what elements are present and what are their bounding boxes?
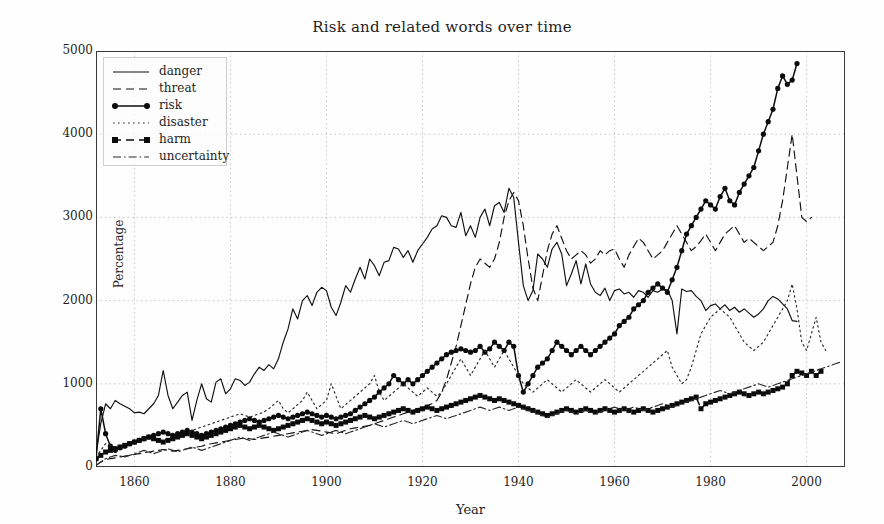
x-tick-label: 1920 [392, 475, 452, 489]
x-tick-label: 2000 [777, 475, 837, 489]
chart-figure: Risk and related words over time dangert… [0, 0, 884, 524]
legend-item-danger[interactable]: danger [104, 62, 226, 79]
legend-label: risk [152, 98, 182, 112]
y-tick-label: 3000 [33, 209, 93, 223]
legend-swatch-danger-icon [110, 64, 152, 78]
legend-label: threat [152, 81, 196, 95]
x-tick-label: 1900 [296, 475, 356, 489]
legend-item-uncertainty[interactable]: uncertainty [104, 147, 226, 164]
y-axis-label: Percentage [112, 184, 126, 324]
legend-swatch-uncertainty-icon [110, 149, 152, 163]
x-tick-label: 1880 [200, 475, 260, 489]
x-axis-label: Year [96, 502, 845, 517]
y-tick-label: 2000 [33, 293, 93, 307]
legend-item-risk[interactable]: risk [104, 96, 226, 113]
y-tick-label: 5000 [33, 43, 93, 57]
plot-area: dangerthreatriskdisasterharmuncertainty … [96, 51, 845, 467]
y-tick-label: 4000 [33, 126, 93, 140]
legend-item-disaster[interactable]: disaster [104, 113, 226, 130]
series-disaster [96, 284, 826, 457]
y-tick-label: 1000 [33, 376, 93, 390]
legend-label: harm [152, 132, 191, 146]
x-tick-label: 1960 [585, 475, 645, 489]
legend-swatch-harm-icon [110, 132, 152, 146]
legend-item-threat[interactable]: threat [104, 79, 226, 96]
y-tick-label: 0 [33, 459, 93, 473]
legend-swatch-threat-icon [110, 81, 152, 95]
series-harm [96, 369, 823, 461]
x-tick-label: 1980 [681, 475, 741, 489]
legend-swatch-risk-icon [110, 98, 152, 112]
legend-item-harm[interactable]: harm [104, 130, 226, 147]
legend: dangerthreatriskdisasterharmuncertainty [103, 57, 227, 166]
x-tick-label: 1940 [489, 475, 549, 489]
legend-label: disaster [152, 115, 208, 129]
series-uncertainty [96, 362, 840, 465]
legend-label: danger [152, 64, 202, 78]
legend-label: uncertainty [152, 149, 229, 163]
legend-swatch-disaster-icon [110, 115, 152, 129]
x-tick-label: 1860 [104, 475, 164, 489]
chart-title: Risk and related words over time [0, 18, 884, 36]
